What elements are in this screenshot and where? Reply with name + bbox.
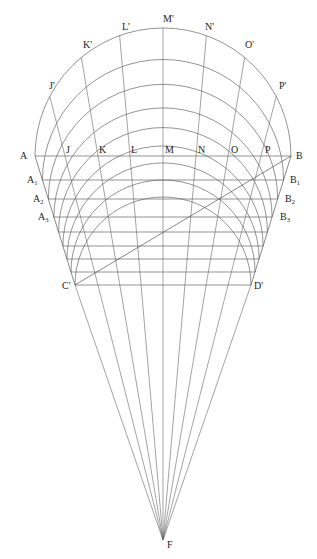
radial-line [163,57,245,540]
left-apex-line [75,285,163,540]
outer-arc-label: L' [122,21,130,32]
right-side-label: D' [254,280,263,291]
radial-line [163,36,206,540]
perspective-construction-diagram: J'K'L'M'N'O'P'AJKLMNOPBA1A2A3C'B1B2B3D'F [0,0,317,559]
radial-line [50,96,163,540]
baseline-label: N [198,144,205,155]
baseline-label: B [296,150,303,161]
outer-arc-label: O' [245,39,254,50]
left-side-label: A1 [27,174,37,186]
right-side-label: B3 [280,211,290,223]
outer-arc-label: K' [83,39,92,50]
baseline-label: P [265,144,271,155]
apex-label: F [167,539,173,550]
diagonal-line [75,156,291,285]
left-side-label: A3 [38,211,48,223]
right-side-label: B1 [290,174,300,186]
left-side-label: A2 [33,193,43,205]
baseline-label: K [99,144,107,155]
radial-line [163,96,276,540]
outer-arc-label: M' [163,13,174,24]
baseline-label: O [231,144,238,155]
baseline-label: M [165,144,174,155]
right-side-label: B2 [285,193,295,205]
baseline-label: A [20,150,28,161]
right-apex-line [163,285,251,540]
outer-arc-label: N' [205,21,214,32]
radial-line [120,36,163,540]
radial-line [81,57,163,540]
diagram-labels: J'K'L'M'N'O'P'AJKLMNOPBA1A2A3C'B1B2B3D'F [20,13,303,550]
diagram-lines [35,28,291,540]
left-side-label: C' [62,280,71,291]
outer-arc-label: P' [279,80,287,91]
outer-arc-label: J' [49,80,55,91]
baseline-label: J [66,144,70,155]
baseline-label: L [131,144,137,155]
